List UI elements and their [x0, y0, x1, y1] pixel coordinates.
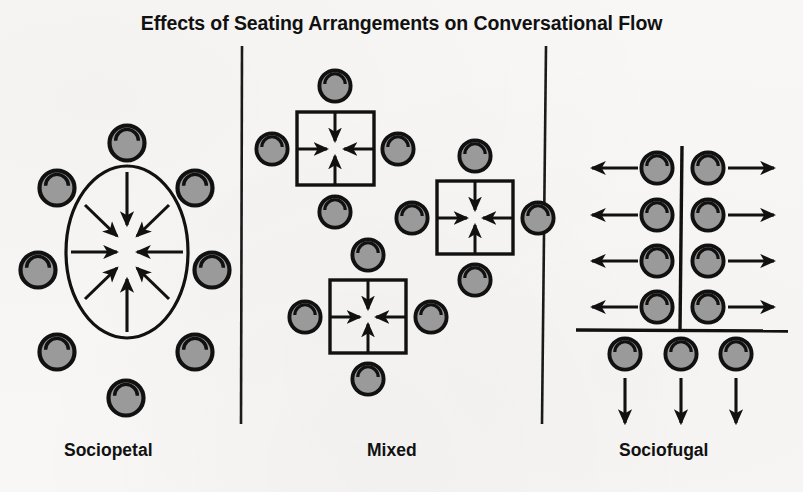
chair[interactable] [195, 253, 230, 288]
chair[interactable] [692, 152, 723, 183]
panel-label-sociopetal: Sociopetal [64, 440, 153, 461]
arrow-inward-se [137, 268, 169, 299]
vertical-bench-line [680, 146, 682, 330]
chair[interactable] [21, 253, 56, 288]
horizontal-bench-line [576, 330, 788, 331]
chair[interactable] [692, 245, 723, 276]
diagram-graphics [0, 0, 803, 492]
chair[interactable] [352, 239, 383, 270]
inward-arrow-group [71, 172, 183, 332]
chair[interactable] [110, 126, 145, 161]
panel-label-sociofugal: Sociofugal [619, 440, 708, 461]
figure-title: Effects of Seating Arrangements on Conve… [0, 12, 803, 35]
outward-arrow-group-bottom [625, 378, 736, 423]
chair-row-bottom [609, 338, 751, 369]
chair[interactable] [459, 264, 490, 295]
square-table-group-3 [289, 239, 446, 394]
chair[interactable] [641, 291, 672, 322]
arrow-inward-sw [85, 268, 117, 299]
chair[interactable] [319, 70, 350, 101]
chair[interactable] [352, 363, 383, 394]
panel-sociofugal [576, 146, 788, 423]
chair[interactable] [609, 338, 640, 369]
chair[interactable] [382, 133, 413, 164]
chair[interactable] [289, 301, 320, 332]
arrow-inward-ne [137, 205, 169, 236]
panel-mixed [256, 70, 553, 394]
square-table-group-2 [396, 140, 553, 295]
chair[interactable] [40, 171, 75, 206]
chair[interactable] [178, 335, 213, 370]
chair[interactable] [641, 199, 672, 230]
chair-ring [21, 126, 230, 416]
divider-1 [241, 46, 242, 424]
chair[interactable] [665, 338, 696, 369]
chair[interactable] [641, 245, 672, 276]
panel-sociopetal [21, 126, 230, 416]
arrow-inward-nw [85, 205, 117, 236]
figure-canvas: Effects of Seating Arrangements on Conve… [0, 0, 803, 492]
chair[interactable] [692, 199, 723, 230]
chair[interactable] [641, 152, 672, 183]
chair-column-right [692, 152, 723, 322]
chair[interactable] [319, 196, 350, 227]
outward-arrow-group-left [592, 168, 638, 307]
outward-arrow-group-right [728, 168, 774, 307]
divider-2 [542, 46, 546, 424]
panel-label-mixed: Mixed [367, 440, 417, 461]
chair[interactable] [415, 301, 446, 332]
chair[interactable] [522, 202, 553, 233]
chair[interactable] [256, 133, 287, 164]
chair[interactable] [720, 338, 751, 369]
chair-column-left [641, 152, 672, 322]
chair[interactable] [40, 335, 75, 370]
chair[interactable] [692, 291, 723, 322]
chair[interactable] [459, 140, 490, 171]
square-table-group-1 [256, 70, 413, 227]
chair[interactable] [109, 381, 144, 416]
chair[interactable] [178, 171, 213, 206]
chair[interactable] [396, 202, 427, 233]
